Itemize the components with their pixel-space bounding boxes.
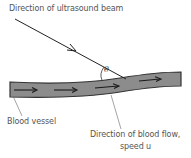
flow-leader-line bbox=[111, 95, 121, 129]
blood-flow-label-line1: Direction of blood flow, bbox=[90, 130, 180, 139]
blood-flow-label-line2: speed u bbox=[120, 142, 151, 151]
doppler-diagram: Direction of ultrasound beam θ Blood ves… bbox=[0, 0, 191, 158]
angle-theta-label: θ bbox=[104, 65, 109, 74]
blood-vessel-shape bbox=[10, 72, 181, 97]
blood-vessel-label: Blood vessel bbox=[7, 117, 56, 126]
beam-direction-label: Direction of ultrasound beam bbox=[9, 4, 123, 13]
vessel-leader-line bbox=[13, 96, 22, 116]
ultrasound-beam bbox=[15, 19, 126, 79]
